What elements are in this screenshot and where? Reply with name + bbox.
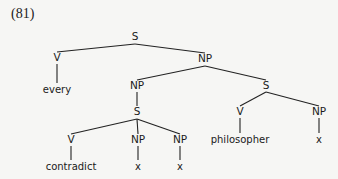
node-s: S xyxy=(263,79,270,91)
node-s: S xyxy=(134,105,141,117)
node-v: V xyxy=(236,105,244,117)
node-np: NP xyxy=(130,79,144,91)
node-np: NP xyxy=(312,105,326,117)
node-v: V xyxy=(67,133,75,145)
leaf-x: x xyxy=(316,134,322,145)
node-np: NP xyxy=(198,52,212,64)
leaf-x: x xyxy=(135,161,141,172)
leaf-philosopher: philosopher xyxy=(211,134,271,145)
syntax-tree: S V every NP NP S S V NP NP contradict x… xyxy=(0,0,338,179)
tree-edges xyxy=(57,44,319,160)
leaf-contradict: contradict xyxy=(46,161,97,172)
tree-labels: S V every NP NP S S V NP NP contradict x… xyxy=(43,30,326,172)
leaf-x: x xyxy=(177,161,183,172)
node-np: NP xyxy=(173,133,187,145)
leaf-every: every xyxy=(43,84,71,95)
node-np: NP xyxy=(131,133,145,145)
node-s: S xyxy=(132,30,139,42)
node-v: V xyxy=(53,51,61,63)
